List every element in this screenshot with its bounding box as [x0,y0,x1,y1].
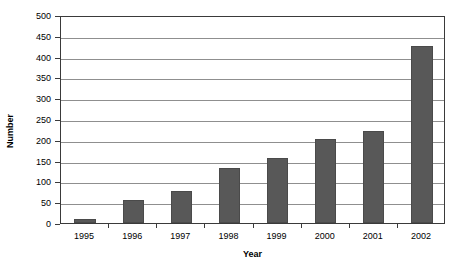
plot-area [60,16,445,224]
x-axis-tick-label: 2002 [411,231,431,241]
y-axis-tick-labels: 500450400350300250200150100500 [18,16,54,224]
x-axis-tick-marks [60,224,445,229]
y-axis-tick-label: 500 [36,12,51,21]
x-axis-tick-label: 1995 [74,231,94,241]
x-axis-tick-labels: 19951996199719981999200020012002 [60,231,445,245]
y-axis-title: Number [2,96,18,166]
y-axis-tick-label: 400 [36,53,51,62]
bar [171,191,192,223]
x-axis-tick-label: 1999 [267,231,287,241]
x-axis-tick-mark [204,224,205,228]
x-axis-tick-label: 1997 [170,231,190,241]
x-axis-tick-label: 2001 [363,231,383,241]
y-axis-tick-label: 350 [36,74,51,83]
bar [123,200,144,223]
x-axis-tick-mark [156,224,157,228]
y-axis-tick-label: 100 [36,178,51,187]
x-axis-title: Year [60,249,445,259]
x-axis-tick-mark [349,224,350,228]
y-axis-tick-label: 200 [36,136,51,145]
bar [74,219,95,223]
x-axis-tick-mark [108,224,109,228]
y-axis-tick-label: 250 [36,116,51,125]
bar [219,168,240,223]
bar [363,131,384,223]
y-axis-tick-label: 300 [36,95,51,104]
x-axis-tick-label: 2000 [315,231,335,241]
bars-layer [61,17,444,223]
x-axis-tick-label: 1996 [122,231,142,241]
bar [267,158,288,223]
y-axis-tick-label: 450 [36,32,51,41]
x-axis-tick-mark [253,224,254,228]
x-axis-tick-mark [301,224,302,228]
y-axis-tick-label: 50 [41,199,51,208]
x-axis-tick-mark [397,224,398,228]
bar [315,139,336,223]
bar-chart-figure: Number 500450400350300250200150100500 19… [0,0,473,278]
bar [411,46,432,223]
y-axis-tick-label: 150 [36,157,51,166]
y-axis-tick-label: 0 [46,220,51,229]
x-axis-tick-label: 1998 [218,231,238,241]
